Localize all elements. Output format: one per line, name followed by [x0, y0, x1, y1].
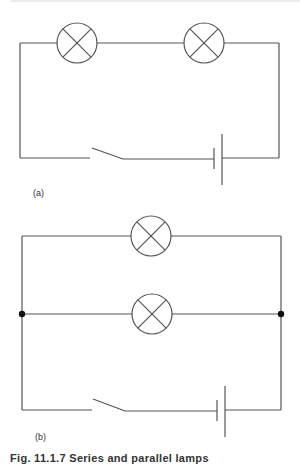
- junction-dot-icon: [19, 311, 25, 317]
- lamp-icon: [132, 294, 172, 334]
- panel-label-a: (a): [33, 188, 44, 198]
- switch-icon: [93, 399, 125, 411]
- lamp-icon: [184, 23, 224, 63]
- parallel-circuit: [19, 216, 284, 437]
- switch-icon: [92, 148, 123, 159]
- panel-label-b: (b): [35, 432, 46, 442]
- battery-icon: [217, 386, 225, 437]
- lamp-icon: [131, 216, 171, 256]
- battery-icon: [214, 134, 222, 185]
- figure-caption: Fig. 11.1.7 Series and parallel lamps: [10, 452, 209, 464]
- series-circuit: [20, 23, 279, 185]
- junction-dot-icon: [278, 311, 284, 317]
- lamp-icon: [57, 23, 97, 63]
